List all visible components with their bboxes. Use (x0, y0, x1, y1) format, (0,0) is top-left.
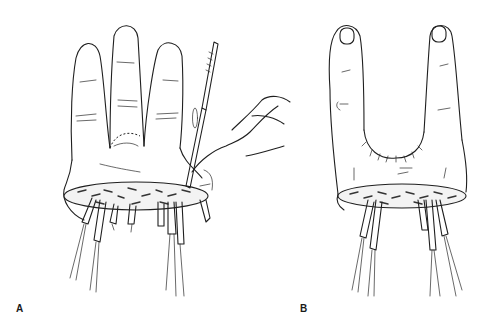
panel-a-illustration (0, 0, 300, 300)
panel-label-b: B (300, 303, 307, 314)
hand-scalpel-drawing (0, 0, 300, 300)
panel-label-a: A (16, 303, 23, 314)
panel-b-illustration (290, 0, 478, 300)
hand-resected-drawing (290, 0, 478, 300)
